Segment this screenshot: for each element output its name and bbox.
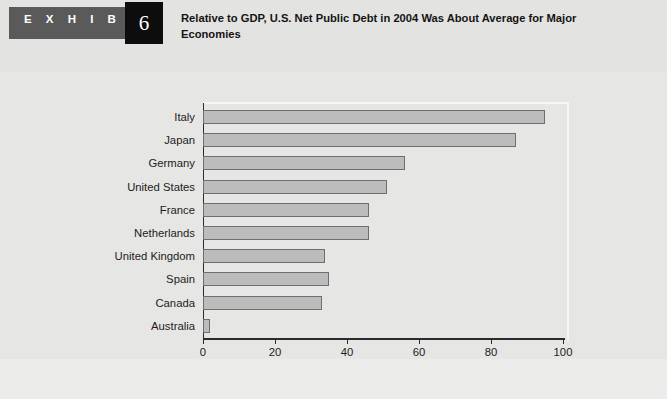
bar — [203, 319, 210, 333]
bar — [203, 156, 405, 170]
bar-category-label: Netherlands — [134, 223, 195, 244]
exhibit-number-box: 6 — [125, 2, 163, 44]
bar — [203, 296, 322, 310]
x-axis-line — [203, 338, 565, 340]
x-tick-label: 40 — [341, 346, 354, 358]
x-tick-label: 60 — [413, 346, 426, 358]
x-tick-mark — [419, 338, 420, 344]
bar — [203, 180, 387, 194]
x-tick-mark — [491, 338, 492, 344]
bar — [203, 249, 325, 263]
x-tick-label: 100 — [554, 346, 573, 358]
bar-category-label: Italy — [174, 107, 195, 128]
x-tick-mark — [563, 338, 564, 344]
footer-area — [0, 359, 667, 399]
bar — [203, 203, 369, 217]
bar-category-label: France — [160, 200, 195, 221]
exhibit-header: E X H I B I T 6 Relative to GDP, U.S. Ne… — [0, 0, 667, 72]
plot-area: ItalyJapanGermanyUnited StatesFranceNeth… — [203, 105, 563, 337]
page-title: Relative to GDP, U.S. Net Public Debt in… — [181, 11, 601, 42]
bar-category-label: United States — [127, 177, 195, 198]
bar — [203, 272, 329, 286]
x-tick-label: 20 — [269, 346, 282, 358]
bar-category-label: Germany — [149, 153, 195, 174]
chart-panel: ItalyJapanGermanyUnited StatesFranceNeth… — [0, 72, 667, 359]
exhibit-number: 6 — [125, 2, 163, 44]
bar-category-label: Canada — [155, 293, 195, 314]
x-tick-label: 80 — [485, 346, 498, 358]
bar-category-label: Australia — [151, 316, 195, 337]
x-tick-mark — [347, 338, 348, 344]
x-tick-mark — [203, 338, 204, 344]
x-tick-mark — [275, 338, 276, 344]
bar — [203, 110, 545, 124]
bar — [203, 226, 369, 240]
bar-category-label: United Kingdom — [115, 246, 195, 267]
x-tick-label: 0 — [200, 346, 206, 358]
bar-category-label: Japan — [164, 130, 195, 151]
bar — [203, 133, 516, 147]
bar-category-label: Spain — [166, 269, 195, 290]
